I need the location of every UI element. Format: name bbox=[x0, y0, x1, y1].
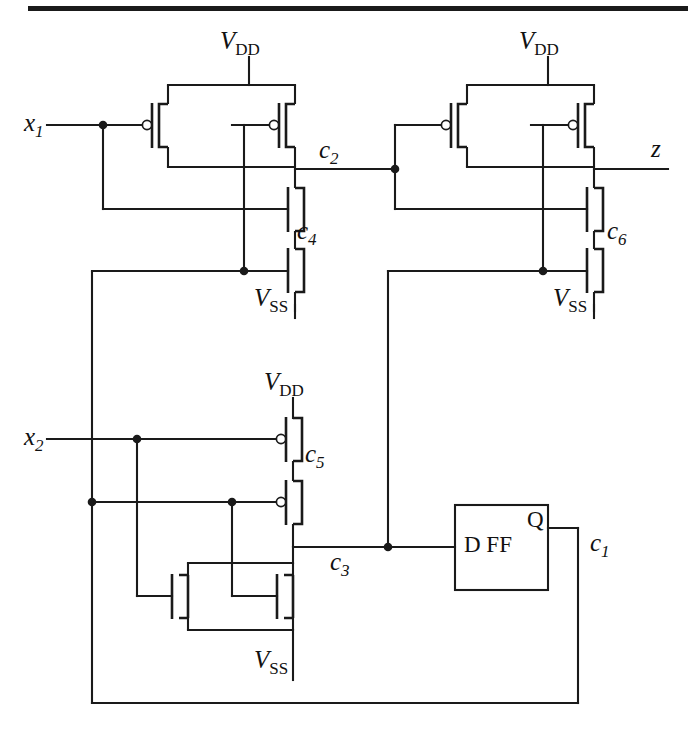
label-vdd-top-right: VDD bbox=[519, 28, 559, 53]
label-dff-q-port: Q bbox=[527, 508, 544, 531]
nmos-tr-up-channel bbox=[594, 188, 603, 231]
junction-x2 bbox=[133, 435, 142, 444]
pmos-top-right-b bbox=[531, 85, 594, 167]
label-x1: x1 bbox=[24, 110, 44, 135]
label-c6: c6 bbox=[607, 218, 627, 243]
label-c1: c1 bbox=[590, 530, 610, 555]
label-vdd-bottom: VDD bbox=[264, 369, 304, 394]
d-flip-flop-block[interactable] bbox=[92, 272, 578, 703]
label-x2: x2 bbox=[24, 424, 44, 449]
pmos-tr-a-channel bbox=[458, 104, 467, 147]
nmos-tl-lo-channel bbox=[295, 249, 304, 292]
pmos-tl-a-channel bbox=[159, 104, 168, 147]
nmos-bl-a-channel-ears bbox=[179, 575, 188, 618]
pmos-top-left-b bbox=[232, 85, 295, 167]
label-vss-bottom: VSS bbox=[254, 647, 288, 672]
pmos-bottom-b bbox=[92, 480, 302, 547]
label-vss-top-right: VSS bbox=[553, 285, 587, 310]
junction-c1-bottom bbox=[228, 498, 237, 507]
pmos-tr-b-channel bbox=[585, 104, 594, 147]
label-c2: c2 bbox=[319, 137, 339, 162]
nmos-bottom-a bbox=[137, 563, 188, 630]
gate-top-left bbox=[47, 57, 395, 318]
pmos-tr-a-bubble-icon bbox=[441, 120, 450, 129]
schematic-canvas: VDD VDD VDD VSS VSS VSS x1 x2 z c2 c4 c6… bbox=[0, 0, 696, 737]
nmos-bl-b-channel-ears bbox=[284, 575, 293, 618]
label-vdd-top-left: VDD bbox=[220, 28, 260, 53]
nmos-bottom-b bbox=[232, 563, 293, 630]
label-dff-body: D FF bbox=[464, 533, 512, 556]
pmos-bl-a-bubble-icon bbox=[276, 434, 285, 443]
pmos-bottom-a bbox=[137, 417, 302, 481]
pmos-top-right-a bbox=[395, 85, 467, 167]
pmos-tl-a-bubble-icon bbox=[142, 120, 151, 129]
pmos-tl-b-channel bbox=[286, 104, 295, 147]
label-z: z bbox=[651, 136, 661, 161]
label-c4: c4 bbox=[297, 218, 317, 243]
label-vss-top-left: VSS bbox=[254, 285, 288, 310]
nmos-top-right-upper bbox=[395, 169, 603, 249]
pmos-top-left-a bbox=[103, 85, 168, 167]
label-c3: c3 bbox=[330, 549, 350, 574]
pmos-tl-b-bubble-icon bbox=[269, 120, 278, 129]
gate-top-right bbox=[388, 57, 668, 318]
gate-bottom bbox=[47, 398, 392, 680]
circuit-schematic-svg bbox=[0, 0, 696, 737]
top-rule bbox=[28, 6, 688, 11]
pmos-tr-b-bubble-icon bbox=[568, 120, 577, 129]
pmos-bl-b-channel bbox=[293, 481, 302, 524]
nmos-tr-lo-channel bbox=[594, 249, 603, 292]
nmos-top-left-upper bbox=[103, 169, 304, 249]
pmos-bl-a-channel bbox=[293, 418, 302, 461]
label-c5: c5 bbox=[305, 441, 325, 466]
pmos-bl-b-bubble-icon bbox=[276, 497, 285, 506]
